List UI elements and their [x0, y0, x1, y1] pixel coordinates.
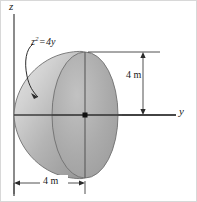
dim-arrow-down	[140, 109, 145, 115]
y-axis-label: y	[179, 106, 184, 117]
paraboloid-figure: z y z2=4y 4 m 4 m	[0, 0, 197, 202]
equation-operator: =	[38, 36, 46, 47]
figure-canvas	[0, 0, 197, 202]
vertical-dimension-label: 4 m	[126, 70, 141, 80]
origin-center-point	[83, 113, 88, 118]
horizontal-dimension-label: 4 m	[43, 176, 58, 186]
dim-arrow-up	[140, 52, 145, 58]
equation-label: z2=4y	[31, 36, 56, 47]
equation-right-side: 4y	[46, 36, 55, 47]
dim-arrow-right	[79, 180, 85, 185]
z-axis-label: z	[9, 1, 13, 12]
dim-arrow-left	[14, 180, 20, 185]
